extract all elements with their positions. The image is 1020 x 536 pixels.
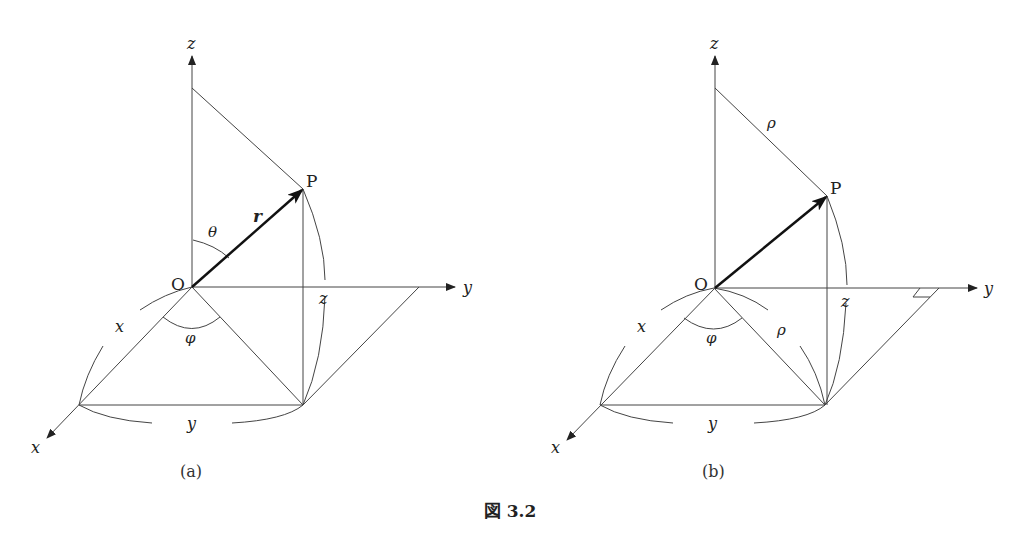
point-p-label: P [306,171,317,191]
x-axis-label: x [31,438,40,457]
origin-label-b: O [694,274,708,294]
origin-label: O [171,274,185,294]
x-axis [47,287,192,438]
edge-y-label: y [186,414,197,433]
x-axis [567,288,715,440]
edge-x-label: x [115,317,124,336]
vector-op [715,197,826,288]
vector-r-label: r [253,206,263,226]
edge-x-label-b: x [637,317,646,336]
theta-label: θ [208,223,217,241]
panel-a [47,56,455,438]
rho-top-label: ρ [766,114,776,132]
edge-z-label-b: z [840,292,850,311]
edge-z-label: z [318,289,328,308]
x-axis-label-b: x [551,438,560,457]
point-p-label-b: P [830,178,841,198]
diagram-canvas: z y x O P r θ φ x y z z y x O P ρ ρ φ x … [0,0,1020,536]
phi-label: φ [185,329,196,347]
rho-base-label: ρ [776,321,786,339]
edge-y-label-b: y [707,414,718,433]
y-axis-label-b: y [983,279,994,298]
phi-label-b: φ [706,329,717,347]
z-axis-label-b: z [709,34,719,53]
y-axis-label: y [462,278,473,297]
z-axis-label: z [186,34,196,53]
